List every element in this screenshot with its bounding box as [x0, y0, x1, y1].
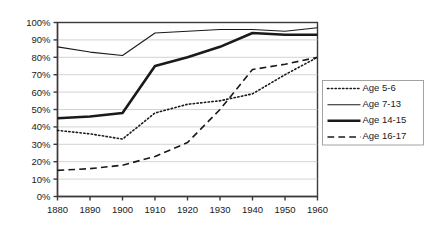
- x-axis-tick-label: 1950: [274, 204, 295, 215]
- legend-label-age-14-15: Age 14-15: [363, 114, 407, 125]
- x-axis-tick-label: 1960: [307, 204, 328, 215]
- x-axis-tick-label: 1910: [144, 204, 165, 215]
- legend-label-age-16-17: Age 16-17: [363, 130, 407, 141]
- x-axis-tick-label: 1930: [209, 204, 230, 215]
- legend-label-age-7-13: Age 7-13: [363, 98, 402, 109]
- y-axis-tick-label: 30%: [31, 139, 51, 150]
- x-axis-tick-label: 1880: [47, 204, 68, 215]
- y-axis-tick-label: 60%: [31, 87, 51, 98]
- x-axis-tick-label: 1900: [112, 204, 133, 215]
- y-axis-tick-label: 70%: [31, 69, 51, 80]
- x-axis-tick-label: 1890: [79, 204, 100, 215]
- x-axis-tick-label: 1920: [177, 204, 198, 215]
- chart-canvas: 0%10%20%30%40%50%60%70%80%90%100%1880189…: [0, 0, 439, 227]
- y-axis-tick-label: 40%: [31, 121, 51, 132]
- y-axis-tick-label: 90%: [31, 34, 51, 45]
- y-axis-tick-label: 100%: [26, 17, 51, 28]
- y-axis-tick-label: 10%: [31, 174, 51, 185]
- legend-label-age-5-6: Age 5-6: [363, 82, 396, 93]
- line-chart: 0%10%20%30%40%50%60%70%80%90%100%1880189…: [0, 0, 439, 227]
- y-axis-tick-label: 0%: [37, 191, 51, 202]
- y-axis-tick-label: 50%: [31, 104, 51, 115]
- y-axis-tick-label: 20%: [31, 156, 51, 167]
- y-axis-tick-label: 80%: [31, 52, 51, 63]
- x-axis-tick-label: 1940: [242, 204, 263, 215]
